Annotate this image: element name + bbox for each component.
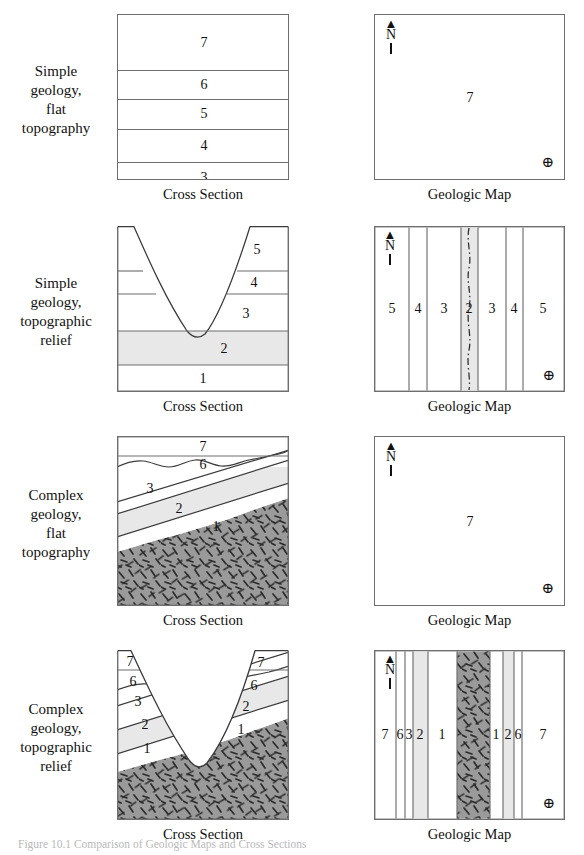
unit-label-1: 1 [213,520,220,534]
unit-label-3: 3 [243,307,250,321]
unit-label-2-right: 2 [243,700,250,714]
figure-caption: Figure 10.1 Comparison of Geologic Maps … [18,838,438,851]
row-label-line: topographic [0,738,112,757]
north-tick [390,465,391,476]
row-label-line: flat [0,100,112,119]
map-band-label-7b: 7 [540,728,547,742]
row-label-line: Complex [0,700,112,719]
row-label-line: Complex [0,486,112,505]
unit-label-1-right: 1 [238,723,245,737]
layer-boundary [118,99,288,100]
north-arrow-icon: ▲ N [382,655,398,689]
unit-label-4: 4 [201,139,208,153]
figure-row-simple-flat: Simple geology, flat topography 7 6 5 4 … [0,0,584,210]
map-band-label-2b: 2 [505,728,512,742]
unit-label-7-left: 7 [127,655,134,669]
map-band-label-3: 3 [406,728,413,742]
cross-section-drawing [117,650,289,820]
row-label-complex-relief: Complex geology, topographic relief [0,700,112,776]
benchmark-icon: ⊕ [542,368,555,383]
benchmark-icon: ⊕ [541,581,554,596]
north-tick [389,678,390,689]
geologic-map-caption: Geologic Map [374,612,565,629]
geologic-map-caption: Geologic Map [374,398,565,415]
row-label-complex-flat: Complex geology, flat topography [0,486,112,562]
unit-label-4: 4 [251,276,258,290]
row-label-line: topography [0,119,112,138]
map-band-label-3b: 3 [489,302,496,316]
cross-section-caption: Cross Section [117,398,289,415]
row-label-line: Simple [0,62,112,81]
unit-label-1-left: 1 [144,742,151,756]
benchmark-icon: ⊕ [542,796,555,811]
map-band-label-2: 2 [466,302,473,316]
north-tick [389,254,390,265]
geologic-map-box: ▲ N 7 ⊕ [374,14,565,180]
unit-label-5: 5 [254,243,261,257]
unit-label-5: 5 [201,107,208,121]
unit-label-6-left: 6 [130,675,137,689]
map-band-label-5b: 5 [540,302,547,316]
map-unit-label-7: 7 [467,91,474,105]
unit-label-1: 1 [200,372,207,386]
cross-section-caption: Cross Section [117,186,289,203]
unit-label-6: 6 [201,78,208,92]
row-label-line: topography [0,543,112,562]
row-label-line: relief [0,757,112,776]
unit-label-7-right: 7 [258,656,265,670]
map-band-label-6: 6 [397,728,404,742]
map-unit-label-7: 7 [467,515,474,529]
figure-row-complex-relief: Complex geology, topographic relief [0,636,584,851]
map-band-label-4b: 4 [511,302,518,316]
row-label-line: relief [0,331,112,350]
figure-row-simple-relief: Simple geology, topographic relief 5 [0,212,584,420]
row-label-line: flat [0,524,112,543]
row-label-simple-relief: Simple geology, topographic relief [0,274,112,350]
map-band-label-7: 7 [382,728,389,742]
cross-section-box: 7 6 3 2 1 [117,436,289,606]
cross-section-box: 7 6 3 2 1 7 6 2 1 [117,650,289,820]
geologic-map-box: ▲ N 7 ⊕ [374,436,565,606]
map-band-label-1b: 1 [493,728,500,742]
layer-boundary [118,162,288,163]
unit-label-6-right: 6 [251,679,258,693]
map-band-label-4: 4 [415,302,422,316]
cross-section-caption: Cross Section [117,612,289,629]
row-label-line: geology, [0,81,112,100]
unit-label-2: 2 [176,502,183,516]
unit-label-3: 3 [147,482,154,496]
map-band-label-2: 2 [417,728,424,742]
benchmark-icon: ⊕ [541,155,554,170]
layer-boundary [118,129,288,130]
unit-label-3-left: 3 [135,695,142,709]
geologic-map-caption: Geologic Map [374,186,565,203]
row-label-line: geology, [0,505,112,524]
row-label-simple-flat: Simple geology, flat topography [0,62,112,138]
map-band-label-3: 3 [441,302,448,316]
row-label-line: geology, [0,293,112,312]
map-band-label-6b: 6 [515,728,522,742]
cross-section-box: 7 6 5 4 3 [117,14,289,180]
map-band-label-1: 1 [439,728,446,742]
cross-section-box: 5 4 3 2 1 [117,226,289,392]
layer-boundary [118,70,288,71]
unit-label-7: 7 [200,440,207,454]
north-arrow-icon: ▲ N [383,20,399,54]
north-tick [390,43,391,54]
unit-label-7: 7 [201,36,208,50]
map-band-label-5: 5 [389,302,396,316]
figure-row-complex-flat: Complex geology, flat topography [0,422,584,634]
row-label-line: topographic [0,312,112,331]
north-arrow-icon: ▲ N [383,442,399,476]
geologic-map-box: ▲ N 5 4 3 2 3 4 5 ⊕ [374,226,565,392]
row-label-line: geology, [0,719,112,738]
row-label-line: Simple [0,274,112,293]
geologic-map-box: ▲ N 7 6 3 2 1 1 2 6 7 ⊕ [374,650,565,820]
cross-section-drawing [117,226,289,392]
unit-label-2: 2 [221,342,228,356]
unit-label-3: 3 [201,171,208,180]
north-arrow-icon: ▲ N [382,231,398,265]
unit-label-6: 6 [200,458,207,472]
unit-label-2-left: 2 [142,718,149,732]
